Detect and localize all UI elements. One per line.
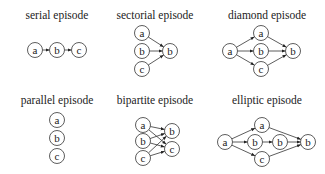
node-label: b [252, 136, 258, 148]
edge-arrow [150, 151, 165, 156]
node-label: b [140, 135, 146, 147]
edge-arrow [236, 37, 254, 47]
parallel-episode-title: parallel episode [21, 94, 93, 107]
node-label: b [169, 125, 175, 137]
sectorial-episode-title: sectorial episode [117, 9, 194, 22]
elliptic-episode-title: elliptic episode [232, 94, 302, 107]
node-label: b [139, 45, 145, 57]
edge-arrow [268, 55, 287, 66]
node-label: a [259, 27, 264, 39]
node-label: b [290, 45, 296, 57]
edge-arrow [268, 37, 287, 48]
node-label: a [223, 136, 228, 148]
node-label: c [170, 143, 175, 155]
edge-arrow [150, 133, 165, 138]
node-label: b [54, 132, 60, 144]
edge-arrow [150, 127, 164, 130]
node-label: c [260, 153, 265, 165]
node-label: a [141, 119, 146, 131]
bipartite-episode-title: bipartite episode [117, 94, 193, 107]
node-label: b [305, 136, 311, 148]
edge-arrow [148, 55, 163, 65]
elliptic-episode-panel: elliptic episodeaabbcb [218, 94, 316, 167]
edge-arrow [236, 55, 254, 65]
serial-episode-panel: serial episodeabc [26, 9, 89, 58]
node-label: a [140, 27, 145, 39]
serial-episode-title: serial episode [26, 9, 89, 22]
edge-arrow [148, 136, 166, 153]
diamond-episode-title: diamond episode [228, 9, 306, 22]
bipartite-episode-panel: bipartite episodeabcbc [117, 94, 193, 166]
sectorial-episode-panel: sectorial episodeabcb [117, 9, 194, 77]
node-label: c [259, 63, 264, 75]
node-label: c [77, 44, 82, 56]
node-label: c [141, 152, 146, 164]
episode-diagram: serial episodeabcsectorial episodeabcbdi… [0, 0, 325, 174]
node-label: c [55, 150, 60, 162]
node-label: b [167, 45, 173, 57]
node-label: b [54, 44, 60, 56]
node-label: b [258, 45, 264, 57]
node-label: c [140, 63, 145, 75]
diamond-episode-panel: diamond episodeaabcb [223, 9, 307, 77]
edge-arrow [149, 130, 166, 144]
node-label: b [277, 136, 283, 148]
parallel-episode-panel: parallel episodeabc [21, 94, 93, 164]
node-label: a [260, 119, 265, 131]
node-label: a [228, 45, 233, 57]
node-label: a [33, 44, 38, 56]
edge-arrow [148, 37, 163, 47]
node-label: a [55, 114, 60, 126]
